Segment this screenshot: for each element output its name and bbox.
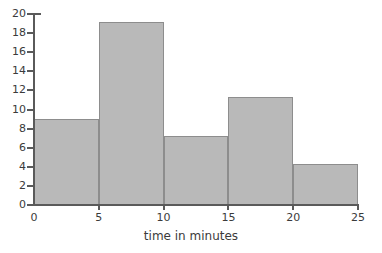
histogram-bar — [34, 119, 99, 205]
y-axis-tick — [27, 89, 34, 91]
y-axis-tick — [27, 166, 34, 168]
y-axis-tick-label: 18 — [0, 27, 26, 38]
x-axis-tick — [98, 205, 100, 210]
y-axis-tick — [27, 13, 41, 15]
y-axis-tick-label: 16 — [0, 46, 26, 57]
x-axis-tick-label: 15 — [213, 212, 243, 224]
y-axis-tick-label: 12 — [0, 84, 26, 95]
y-axis-tick-label: 0 — [0, 199, 26, 210]
y-axis-tick — [27, 128, 34, 130]
histogram-bar — [228, 97, 293, 205]
x-axis-line — [33, 204, 359, 206]
y-axis-tick-label: 8 — [0, 123, 26, 134]
x-axis-tick-label: 20 — [278, 212, 308, 224]
y-axis-tick — [27, 32, 34, 34]
plot-area — [34, 14, 358, 205]
y-axis-tick — [27, 51, 34, 53]
y-axis-tick-label: 14 — [0, 65, 26, 76]
histogram-bar — [164, 136, 229, 205]
y-axis-tick-label: 4 — [0, 161, 26, 172]
y-axis-tick — [27, 109, 34, 111]
histogram-bar — [99, 22, 164, 205]
x-axis-tick-label: 25 — [343, 212, 373, 224]
x-axis-title: time in minutes — [0, 229, 382, 243]
x-axis-tick — [292, 205, 294, 210]
x-axis-tick-label: 0 — [19, 212, 49, 224]
y-axis-tick — [27, 185, 34, 187]
x-axis-tick-label: 10 — [149, 212, 179, 224]
x-axis-tick-label: 5 — [84, 212, 114, 224]
y-axis-tick-label: 6 — [0, 142, 26, 153]
y-axis-tick — [27, 147, 34, 149]
y-axis-tick — [27, 204, 34, 206]
histogram-bar — [293, 164, 358, 205]
x-axis-tick — [163, 205, 165, 210]
y-axis-tick-label: 20 — [0, 8, 26, 19]
histogram-chart: 02468101214161820 0510152025 time in min… — [0, 0, 382, 253]
x-axis-tick — [357, 205, 359, 210]
y-axis-tick — [27, 70, 34, 72]
y-axis-tick-label: 10 — [0, 104, 26, 115]
y-axis-tick-label: 2 — [0, 180, 26, 191]
x-axis-tick — [227, 205, 229, 210]
